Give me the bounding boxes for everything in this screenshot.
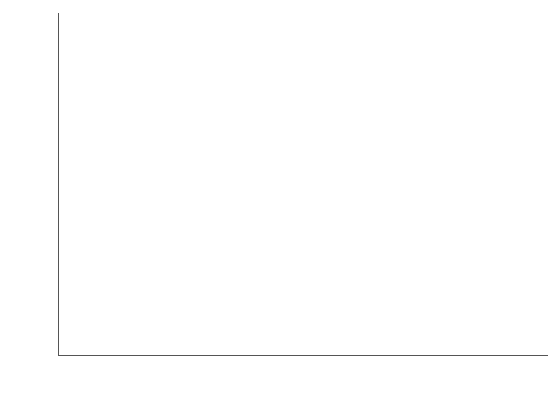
- x-axis-line: [58, 355, 548, 356]
- y-axis-line: [58, 13, 59, 356]
- plot-area: [58, 13, 548, 355]
- stacked-area-svg: [58, 13, 548, 355]
- chart-figure: [0, 0, 553, 405]
